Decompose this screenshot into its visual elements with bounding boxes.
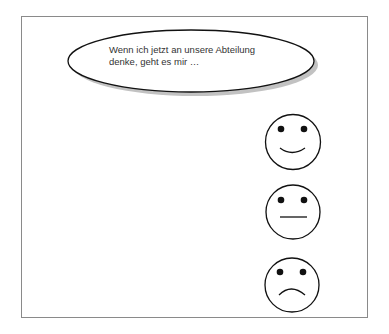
neutral-face-icon[interactable] <box>266 185 320 239</box>
speech-bubble-line-1: Wenn ich jetzt an unsere Abteilung <box>109 44 299 56</box>
sad-face-icon[interactable] <box>265 258 319 312</box>
happy-face-icon[interactable] <box>266 115 321 170</box>
speech-bubble-line-2: denke, geht es mir … <box>109 56 299 68</box>
speech-bubble-text: Wenn ich jetzt an unsere Abteilung denke… <box>109 44 299 68</box>
